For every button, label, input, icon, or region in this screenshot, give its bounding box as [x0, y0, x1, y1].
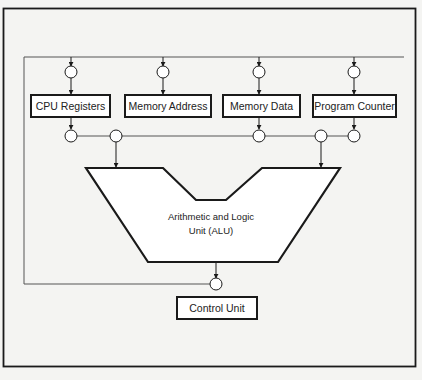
input-gates	[65, 66, 360, 78]
cpu-registers-box: CPU Registers	[31, 95, 110, 117]
alu-label-line2: Unit (ALU)	[189, 225, 233, 236]
program-counter-box: Program Counter	[313, 95, 396, 117]
memory-address-label: Memory Address	[129, 100, 208, 112]
cpu-registers-label: CPU Registers	[36, 100, 105, 112]
control-unit-label: Control Unit	[189, 302, 245, 314]
alu-label-line1: Arithmetic and Logic	[168, 211, 254, 222]
input-connectors	[71, 57, 354, 94]
memory-address-box: Memory Address	[125, 95, 211, 117]
gate-icon	[253, 130, 265, 142]
cpu-block-diagram: CPU Registers Memory Address Memory Data…	[0, 0, 422, 380]
alu-block: Arithmetic and Logic Unit (ALU)	[86, 168, 340, 262]
memory-data-box: Memory Data	[223, 95, 300, 117]
gate-icon	[348, 130, 360, 142]
gate-icon	[157, 66, 169, 78]
gate-icon	[253, 66, 265, 78]
gate-icon	[110, 130, 122, 142]
gate-icon	[65, 130, 77, 142]
output-connectors	[71, 117, 354, 167]
gate-icon	[348, 66, 360, 78]
gate-icon	[65, 66, 77, 78]
memory-data-label: Memory Data	[230, 100, 293, 112]
program-counter-label: Program Counter	[314, 100, 395, 112]
gate-icon	[210, 278, 222, 290]
control-unit-box: Control Unit	[177, 297, 257, 319]
gate-icon	[315, 130, 327, 142]
